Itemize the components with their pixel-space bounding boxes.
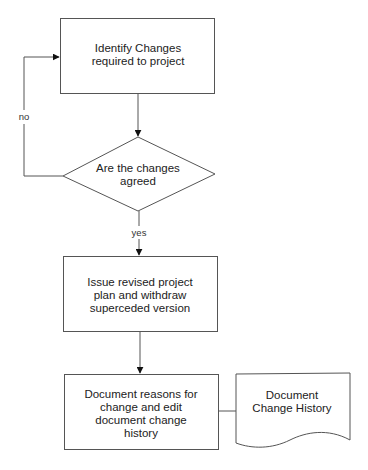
- node-document-line-3: document change: [95, 414, 186, 426]
- node-document-line-2: change and edit: [100, 401, 183, 413]
- edge-label-no: no: [19, 111, 30, 122]
- node-agreed-line-1: Are the changes: [96, 162, 180, 174]
- flowchart: no yes Identify Changes required to proj…: [0, 0, 368, 470]
- node-agreed-line-2: agreed: [120, 175, 156, 187]
- node-document-line-1: Document reasons for: [84, 388, 197, 400]
- node-changes-agreed-decision: Are the changes agreed: [63, 137, 215, 211]
- node-document-reasons: Document reasons for change and edit doc…: [65, 375, 219, 450]
- node-identify-line-1: Identify Changes: [95, 42, 182, 54]
- node-issue-line-1: Issue revised project: [87, 276, 193, 288]
- node-document-change-history: Document Change History: [236, 373, 350, 447]
- edge-label-yes: yes: [132, 227, 147, 238]
- edge-agreed-to-identify-no-lower: [24, 124, 63, 176]
- node-issue-line-2: plan and withdraw: [94, 289, 187, 301]
- node-issue-line-3: superceded version: [90, 302, 190, 314]
- node-history-line-2: Change History: [252, 402, 332, 414]
- edge-agreed-to-identify-no-upper: [24, 57, 59, 110]
- node-document-line-4: history: [124, 427, 158, 439]
- node-history-line-1: Document: [266, 389, 319, 401]
- node-identify-changes: Identify Changes required to project: [61, 19, 215, 94]
- node-identify-line-2: required to project: [92, 55, 185, 67]
- node-issue-revised-plan: Issue revised project plan and withdraw …: [64, 257, 218, 332]
